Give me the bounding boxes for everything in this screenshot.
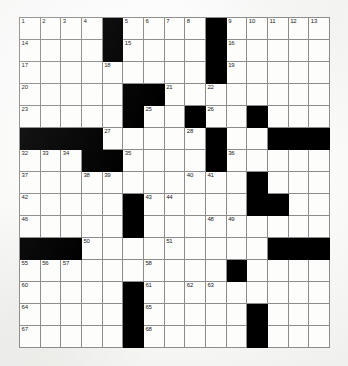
grid-cell[interactable] [144,238,165,260]
grid-cell[interactable] [41,194,62,216]
grid-cell[interactable] [103,194,124,216]
grid-cell[interactable] [185,260,206,282]
grid-cell[interactable] [61,84,82,106]
grid-cell[interactable]: 16 [227,40,248,62]
grid-cell[interactable] [309,282,330,304]
grid-cell[interactable]: 50 [82,238,103,260]
grid-cell[interactable]: 3 [61,18,82,40]
grid-cell[interactable] [165,106,186,128]
grid-cell[interactable]: 22 [206,84,227,106]
crossword-grid[interactable]: 1234567891011121314151617181920212223252… [19,17,330,348]
grid-cell[interactable] [103,216,124,238]
grid-cell[interactable] [289,40,310,62]
grid-cell[interactable] [309,172,330,194]
grid-cell[interactable] [41,326,62,348]
grid-cell[interactable]: 18 [103,62,124,84]
grid-cell[interactable] [227,282,248,304]
grid-cell[interactable]: 46 [20,216,41,238]
grid-cell[interactable] [41,282,62,304]
grid-cell[interactable]: 10 [247,18,268,40]
grid-cell[interactable] [82,260,103,282]
grid-cell[interactable] [144,40,165,62]
grid-cell[interactable] [289,84,310,106]
grid-cell[interactable] [247,238,268,260]
grid-cell[interactable]: 23 [20,106,41,128]
grid-cell[interactable]: 51 [165,238,186,260]
grid-cell[interactable] [103,84,124,106]
grid-cell[interactable]: 17 [20,62,41,84]
grid-cell[interactable] [289,194,310,216]
grid-cell[interactable]: 55 [20,260,41,282]
grid-cell[interactable] [61,216,82,238]
grid-cell[interactable] [227,128,248,150]
grid-cell[interactable] [289,260,310,282]
grid-cell[interactable] [103,260,124,282]
grid-cell[interactable] [144,172,165,194]
grid-cell[interactable] [82,40,103,62]
grid-cell[interactable] [309,84,330,106]
grid-cell[interactable] [309,62,330,84]
grid-cell[interactable] [289,326,310,348]
grid-cell[interactable] [289,106,310,128]
grid-cell[interactable] [41,106,62,128]
grid-cell[interactable] [41,172,62,194]
grid-cell[interactable] [123,62,144,84]
grid-cell[interactable]: 6 [144,18,165,40]
grid-cell[interactable] [165,128,186,150]
grid-cell[interactable] [41,40,62,62]
grid-cell[interactable]: 58 [144,260,165,282]
grid-cell[interactable]: 13 [309,18,330,40]
grid-cell[interactable]: 40 [185,172,206,194]
grid-cell[interactable]: 64 [20,304,41,326]
grid-cell[interactable] [289,216,310,238]
grid-cell[interactable]: 49 [227,216,248,238]
grid-cell[interactable] [268,84,289,106]
grid-cell[interactable] [144,150,165,172]
grid-cell[interactable] [165,260,186,282]
grid-cell[interactable]: 44 [165,194,186,216]
grid-cell[interactable]: 34 [61,150,82,172]
grid-cell[interactable] [82,282,103,304]
grid-cell[interactable] [165,40,186,62]
grid-cell[interactable] [227,194,248,216]
grid-cell[interactable]: 41 [206,172,227,194]
grid-cell[interactable]: 68 [144,326,165,348]
grid-cell[interactable]: 32 [20,150,41,172]
grid-cell[interactable] [165,172,186,194]
grid-cell[interactable] [309,260,330,282]
grid-cell[interactable] [289,304,310,326]
grid-cell[interactable] [82,304,103,326]
grid-cell[interactable]: 43 [144,194,165,216]
grid-cell[interactable]: 1 [20,18,41,40]
grid-cell[interactable] [123,172,144,194]
grid-cell[interactable]: 7 [165,18,186,40]
grid-cell[interactable] [61,194,82,216]
grid-cell[interactable] [268,40,289,62]
grid-cell[interactable]: 28 [185,128,206,150]
grid-cell[interactable] [206,194,227,216]
grid-cell[interactable] [123,260,144,282]
grid-cell[interactable] [41,62,62,84]
grid-cell[interactable]: 5 [123,18,144,40]
grid-cell[interactable] [144,62,165,84]
grid-cell[interactable]: 8 [185,18,206,40]
grid-cell[interactable] [144,216,165,238]
grid-cell[interactable]: 33 [41,150,62,172]
grid-cell[interactable] [82,194,103,216]
grid-cell[interactable]: 60 [20,282,41,304]
grid-cell[interactable]: 36 [227,150,248,172]
grid-cell[interactable] [227,304,248,326]
grid-cell[interactable] [103,304,124,326]
grid-cell[interactable] [309,150,330,172]
grid-cell[interactable] [123,238,144,260]
grid-cell[interactable] [144,128,165,150]
grid-cell[interactable] [268,216,289,238]
grid-cell[interactable]: 14 [20,40,41,62]
grid-cell[interactable] [61,40,82,62]
grid-cell[interactable]: 25 [144,106,165,128]
grid-cell[interactable]: 67 [20,326,41,348]
grid-cell[interactable]: 20 [20,84,41,106]
grid-cell[interactable] [247,128,268,150]
grid-cell[interactable] [185,62,206,84]
grid-cell[interactable] [82,326,103,348]
